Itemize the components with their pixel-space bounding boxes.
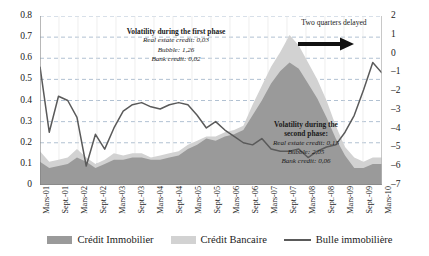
- x-axis-tick: Sept.-05: [214, 186, 222, 214]
- y-axis-right-tick: –1: [391, 67, 401, 77]
- annotation-first-phase: Volatility during the first phase Real e…: [96, 27, 256, 64]
- legend-label: Crédit Bancaire: [201, 235, 267, 246]
- x-axis-tick: Mars-05: [195, 186, 203, 214]
- x-axis-tick: Mars-08: [309, 186, 317, 214]
- y-axis-right-tick: –5: [391, 142, 401, 152]
- x-axis-tick: Sept.-07: [290, 186, 298, 214]
- delay-arrow-icon: [296, 36, 356, 52]
- annotation-first-phase-title: Volatility during the first phase: [96, 27, 256, 36]
- x-axis-tick: Mars-02: [81, 186, 89, 214]
- x-axis-tick: Mars-04: [157, 186, 165, 214]
- annotation-second-phase-title-line-1: Volatility during the: [244, 120, 368, 129]
- x-axis-tick: Mars-09: [347, 186, 355, 214]
- annotation-first-phase-line-1: Real estate credit: 0,03: [96, 36, 256, 45]
- x-axis-tick: Mars-01: [43, 186, 51, 214]
- x-axis-tick: Mars-07: [271, 186, 279, 214]
- legend-item[interactable]: Crédit Immobilier: [47, 235, 153, 246]
- annotation-second-phase-line-3: Bank credit: 0,06: [244, 157, 368, 166]
- y-axis-right-tick: 0: [391, 49, 396, 59]
- annotation-second-phase: Volatility during the second phase: Real…: [244, 120, 368, 166]
- y-axis-left-tick: 0.8: [20, 11, 32, 21]
- legend-item[interactable]: Crédit Bancaire: [171, 235, 267, 246]
- y-axis-right-tick: –3: [391, 105, 401, 115]
- annotation-first-phase-line-3: Bank credit: 0,02: [96, 55, 256, 64]
- x-axis-tick: Mars-10: [385, 186, 393, 214]
- x-axis-tick: Sept.-02: [100, 186, 108, 214]
- y-axis-right-tick: 2: [391, 11, 396, 21]
- y-axis-left-tick: 0: [27, 180, 32, 190]
- y-axis-left-tick: 0.1: [20, 159, 32, 169]
- y-axis-left-tick: 0.3: [20, 117, 32, 127]
- y-axis-right-tick: –4: [391, 124, 401, 134]
- annotation-first-phase-line-2: Bubble: 1,26: [96, 46, 256, 55]
- legend-label: Crédit Immobilier: [77, 235, 153, 246]
- x-axis-tick: Mars-03: [119, 186, 127, 214]
- y-axis-left-tick: 0.4: [20, 96, 32, 106]
- y-axis-right-tick: 1: [391, 30, 396, 40]
- x-axis-tick: Sept.-08: [328, 186, 336, 214]
- y-axis-left-tick: 0.7: [20, 32, 32, 42]
- y-axis-left-tick: 0.5: [20, 74, 32, 84]
- legend-label: Bulle immobilière: [316, 235, 393, 246]
- annotation-second-phase-line-2: Bubble: 2,05: [244, 148, 368, 157]
- x-axis-tick: Sept.-09: [366, 186, 374, 214]
- x-axis-tick: Sept.-06: [252, 186, 260, 214]
- y-axis-right: –7–6–5–4–3–2–1012: [386, 16, 426, 185]
- y-axis-left: 00.10.20.30.40.50.60.70.8: [0, 16, 36, 185]
- y-axis-right-tick: –6: [391, 161, 401, 171]
- legend-area-swatch: [47, 236, 72, 244]
- x-axis-tick: Sept.-04: [176, 186, 184, 214]
- legend-line-swatch: [284, 239, 311, 241]
- chart-container: 00.10.20.30.40.50.60.70.8 –7–6–5–4–3–2–1…: [0, 0, 429, 256]
- annotation-delay-label: Two quarters delayed: [278, 18, 390, 27]
- annotation-second-phase-title-line-2: second phase:: [244, 129, 368, 138]
- x-axis-tick: Mars-06: [233, 186, 241, 214]
- chart-legend: Crédit ImmobilierCrédit BancaireBulle im…: [40, 232, 400, 248]
- x-axis-tick: Sept.-01: [62, 186, 70, 214]
- legend-item[interactable]: Bulle immobilière: [284, 235, 393, 246]
- y-axis-left-tick: 0.6: [20, 53, 32, 63]
- x-axis: Mars-01Sept.-01Mars-02Sept.-02Mars-03Sep…: [40, 186, 382, 230]
- y-axis-left-tick: 0.2: [20, 138, 32, 148]
- y-axis-right-tick: –2: [391, 86, 401, 96]
- x-axis-tick: Sept.-03: [138, 186, 146, 214]
- annotation-second-phase-line-1: Real estate credit: 0,15: [244, 139, 368, 148]
- legend-area-swatch: [171, 236, 196, 244]
